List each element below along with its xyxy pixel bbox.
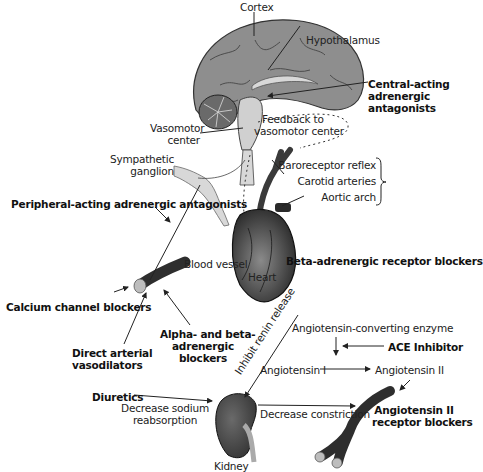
beta-blockers-label: Beta-adrenergic receptor blockers: [286, 255, 483, 267]
sympathetic-ganglion-label: Sympathetic ganglion: [110, 153, 174, 177]
ace-enzyme-label: Angiotensin-converting enzyme: [292, 322, 453, 334]
feedback-label: Feedback to vasomotor center: [254, 113, 344, 137]
decrease-constriction-label: Decrease constriction: [260, 408, 370, 420]
ace-inhibitor-label: ACE Inhibitor: [388, 341, 463, 353]
heart-label: Heart: [248, 271, 276, 283]
blood-vessel-illustration: [134, 262, 185, 293]
decrease-sodium-reabsorption-label: Decrease sodium reabsorption: [120, 402, 210, 426]
sympathetic-ganglion-illustration: [174, 160, 245, 226]
direct-arterial-vasodilators-label: Direct arterial vasodilators: [72, 347, 142, 371]
baroreceptor-labels: Baroreceptor reflex Carotid arteries Aor…: [276, 157, 376, 205]
hypothalamus-label: Hypothalamus: [306, 34, 380, 46]
artery-illustration: [315, 391, 390, 468]
alpha-beta-blockers-label: Alpha- and beta- adrenergic blockers: [160, 328, 246, 364]
kidney-label: Kidney: [214, 460, 249, 472]
angiotensin-1-label: Angiotensin I: [260, 364, 326, 376]
baroreceptor-brace: [376, 158, 386, 205]
angiotensin-2-label: Angiotensin II: [375, 364, 444, 376]
peripheral-acting-antagonists-label: Peripheral-acting adrenergic antagonists: [11, 198, 247, 210]
blood-vessel-label: Blood vessel: [184, 258, 248, 270]
cortex-label: Cortex: [240, 1, 273, 13]
central-acting-antagonists-label: Central-acting adrenergic antagonists: [368, 78, 450, 114]
angiotensin-receptor-blockers-label: Angiotensin II receptor blockers: [372, 404, 456, 428]
vasomotor-center-label: Vasomotor center: [150, 122, 200, 146]
kidney-illustration: [216, 394, 257, 462]
calcium-channel-blockers-label: Calcium channel blockers: [6, 301, 151, 313]
